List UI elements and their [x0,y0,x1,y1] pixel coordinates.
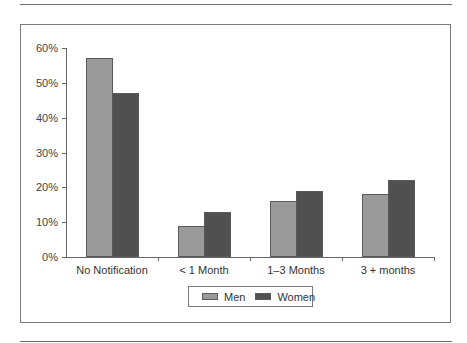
y-tick-label: 40% [18,112,58,124]
y-tick [62,187,66,188]
legend-item-men: Men [202,291,245,303]
bottom-rule [20,341,452,342]
x-tick [342,257,343,261]
legend-item-women: Women [255,291,315,303]
legend-label-women: Women [277,291,315,303]
y-tick-label: 10% [18,216,58,228]
y-tick [62,257,66,258]
bar-women [204,212,231,257]
y-tick [62,153,66,154]
bar-men [178,226,205,257]
legend-label-men: Men [224,291,245,303]
bar-men [86,58,113,257]
y-axis [66,48,67,258]
x-category-label: 3 + months [342,264,434,276]
x-tick [158,257,159,261]
x-tick [250,257,251,261]
y-tick-label: 60% [18,42,58,54]
y-tick-label: 30% [18,147,58,159]
y-tick-label: 0% [18,251,58,263]
bar-women [388,180,415,257]
bar-men [270,201,297,257]
y-tick [62,118,66,119]
legend-swatch-men [202,293,218,300]
y-tick-label: 50% [18,77,58,89]
legend: Men Women [188,286,313,307]
x-category-label: No Notification [66,264,158,276]
x-category-label: < 1 Month [158,264,250,276]
bar-men [362,194,389,257]
bar-women [112,93,139,257]
bar-women [296,191,323,257]
y-tick [62,222,66,223]
legend-swatch-women [255,293,271,300]
y-tick [62,48,66,49]
x-tick [434,257,435,261]
y-tick [62,83,66,84]
y-tick-label: 20% [18,181,58,193]
x-category-label: 1–3 Months [250,264,342,276]
